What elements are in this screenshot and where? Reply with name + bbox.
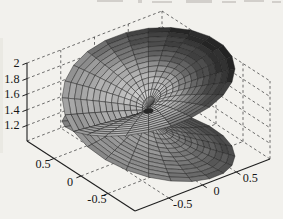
svg-text:1.4: 1.4 [4,103,19,117]
scanned-figure-page: 1.21.41.61.820.50-0.5-0.500.5 [0,0,283,219]
svg-text:1.6: 1.6 [4,87,19,101]
svg-text:0: 0 [67,175,73,189]
svg-text:0.5: 0.5 [35,157,50,171]
svg-text:1.2: 1.2 [4,118,19,132]
scan-edge-shadow [0,38,3,153]
svg-text:0.5: 0.5 [243,171,258,185]
svg-text:-0.5: -0.5 [87,192,106,206]
svg-text:0: 0 [213,184,219,198]
surface-plot-canvas: 1.21.41.61.820.50-0.5-0.500.5 [0,0,283,219]
svg-text:2: 2 [13,56,19,70]
svg-text:1.8: 1.8 [4,72,19,86]
svg-text:-0.5: -0.5 [173,197,192,211]
